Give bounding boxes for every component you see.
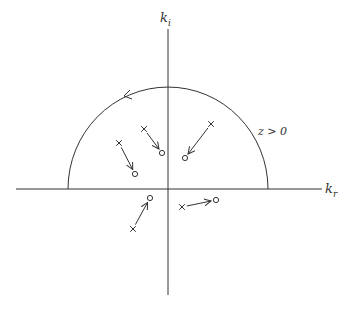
pole-cross-icon [141, 126, 147, 132]
region-label: z > 0 [258, 126, 287, 137]
pole-cross-icon [130, 226, 136, 232]
arrow-icon [147, 133, 159, 149]
pole-cross-icon [208, 121, 214, 127]
zero-circle-icon [132, 171, 137, 176]
trajectory [182, 121, 213, 160]
trajectory [141, 126, 164, 155]
arrow-icon [188, 128, 208, 154]
trajectory [179, 197, 218, 209]
arrow-icon [121, 147, 132, 169]
trajectory [130, 195, 152, 231]
pole-cross-icon [179, 204, 185, 210]
axis-label-kr: kr [325, 182, 337, 199]
zero-circle-icon [182, 155, 187, 160]
complex-k-plane-diagram [0, 0, 349, 310]
pole-zero-trajectories [116, 121, 218, 232]
pole-cross-icon [116, 140, 122, 146]
arrow-icon [135, 202, 147, 224]
arrow-icon [187, 201, 211, 206]
trajectory [116, 140, 137, 176]
zero-circle-icon [213, 197, 218, 202]
axis-label-ki: ki [160, 11, 171, 28]
zero-circle-icon [147, 195, 152, 200]
zero-circle-icon [159, 150, 164, 155]
